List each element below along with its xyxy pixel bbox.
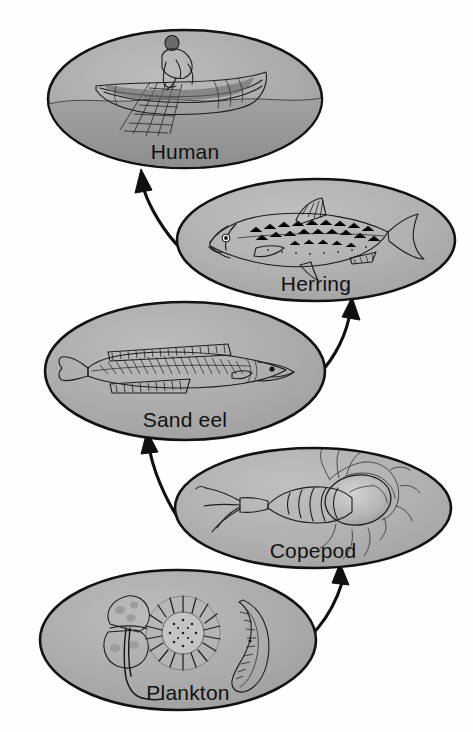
arrowhead-icon: [135, 169, 152, 193]
node-herring[interactable]: Herring: [177, 179, 455, 301]
plankton-label: Plankton: [146, 681, 229, 704]
arrow-herring-to-human: [135, 169, 181, 249]
node-human[interactable]: Human: [48, 30, 322, 170]
food-chain-diagram: Plankton: [0, 0, 473, 732]
human-label: Human: [151, 140, 220, 163]
node-copepod[interactable]: Copepod: [175, 448, 451, 568]
sandeel-label: Sand eel: [143, 408, 228, 431]
food-chain-canvas: Plankton: [0, 0, 473, 732]
copepod-label: Copepod: [270, 539, 357, 562]
node-plankton[interactable]: Plankton: [40, 570, 316, 710]
node-sandeel[interactable]: Sand eel: [45, 302, 325, 440]
herring-label: Herring: [281, 272, 351, 295]
radiolarian-icon: [146, 596, 220, 670]
